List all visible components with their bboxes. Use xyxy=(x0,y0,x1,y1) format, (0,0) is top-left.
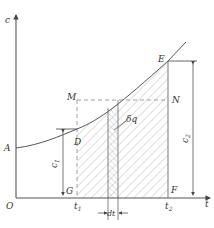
svg-text:c2: c2 xyxy=(180,134,191,143)
diagram-canvas: c t O A D E M N G F t1 t2 c1 c2 dt δq xyxy=(0,0,214,228)
dt-strip xyxy=(108,100,118,220)
dq-label: δq xyxy=(126,114,137,124)
point-g-label: G xyxy=(66,186,73,196)
point-f-label: F xyxy=(170,185,178,195)
point-m-label: M xyxy=(66,92,77,102)
origin-label: O xyxy=(6,201,14,211)
t2-label: t2 xyxy=(165,201,173,212)
x-axis-label: t xyxy=(205,199,209,209)
dt-label: dt xyxy=(107,209,116,218)
t1-label: t1 xyxy=(74,201,81,212)
c1-label: c1 xyxy=(49,159,60,168)
point-e-label: E xyxy=(157,54,165,64)
y-axis-label: c xyxy=(5,15,10,25)
c2-dimension xyxy=(168,61,197,195)
point-n-label: N xyxy=(171,95,181,105)
point-d-label: D xyxy=(73,137,81,147)
point-a-label: A xyxy=(3,143,11,153)
svg-text:c1: c1 xyxy=(49,159,60,168)
c2-label: c2 xyxy=(180,134,191,143)
integral-area xyxy=(77,40,168,198)
